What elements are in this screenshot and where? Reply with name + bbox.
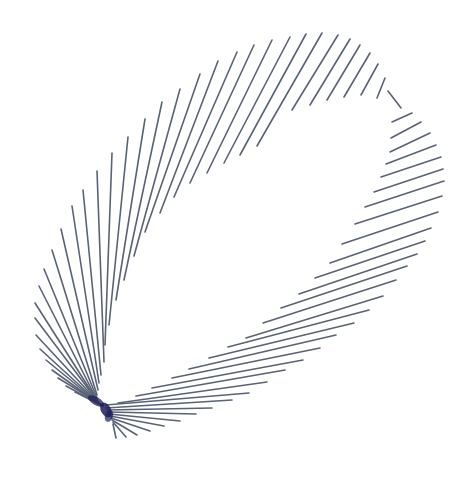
line-art-canvas — [0, 0, 474, 491]
background — [0, 0, 474, 491]
